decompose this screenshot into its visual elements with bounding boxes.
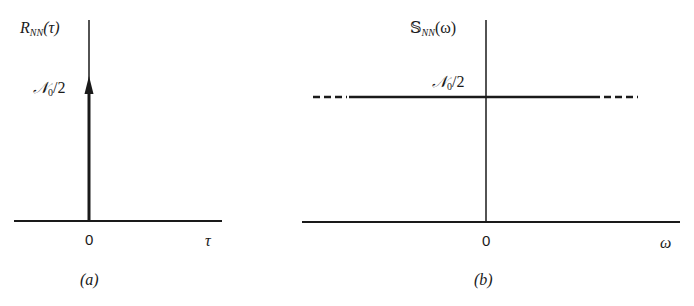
panel-a-origin-tick: 0	[85, 232, 93, 247]
ylabel-subscript: NN	[422, 27, 435, 38]
panel-a-caption: (a)	[80, 272, 99, 288]
panel-b-x-label: ω	[660, 235, 671, 251]
ylabel-symbol: 𝕊	[410, 19, 422, 36]
panel-b-y-label: 𝕊NN(ω)	[410, 20, 456, 38]
panel-a-y-label: RNN(τ)	[20, 20, 60, 38]
ylabel-subscript: NN	[30, 27, 43, 38]
level-suffix: /2	[452, 73, 464, 90]
diagram-canvas	[0, 0, 694, 306]
panel-b-caption: (b)	[474, 272, 493, 288]
panel-a-level-label: 𝒩0/2	[33, 80, 65, 98]
level-symbol: 𝒩	[33, 78, 48, 97]
ylabel-symbol: R	[20, 19, 30, 36]
panel-b-level-label: 𝒩0/2	[432, 74, 464, 92]
panel-a-graphics	[14, 20, 222, 221]
panel-b-origin-tick: 0	[482, 233, 490, 248]
ylabel-arg: (ω)	[435, 19, 456, 36]
panel-b-graphics	[302, 20, 680, 222]
ylabel-arg: (τ)	[43, 19, 59, 36]
level-suffix: /2	[53, 79, 65, 96]
level-symbol: 𝒩	[432, 72, 447, 91]
panel-a-x-label: τ	[205, 233, 211, 249]
impulse-arrowhead-icon	[85, 76, 94, 94]
